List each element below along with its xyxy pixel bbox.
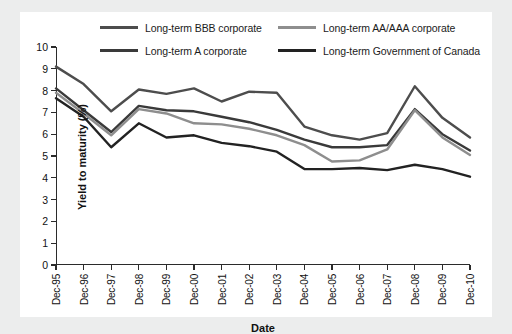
legend-item-aa-aaa: Long-term AA/AAA corporate — [278, 22, 468, 34]
x-tick-label: Dec-07 — [382, 274, 393, 305]
plot-area: 012345678910 Dec-95Dec-96Dec-97Dec-98Dec… — [56, 47, 470, 265]
x-tick-label: Dec-08 — [409, 274, 420, 305]
x-tick — [221, 265, 222, 270]
y-tick-label: 2 — [42, 215, 48, 227]
x-tick-label: Dec-96 — [78, 274, 89, 305]
x-tick-label: Dec-02 — [244, 274, 255, 305]
y-tick-label: 7 — [42, 106, 48, 118]
x-tick-label: Dec-97 — [106, 274, 117, 305]
x-tick-label: Dec-99 — [161, 274, 172, 305]
legend-swatch-aa-aaa — [278, 26, 316, 29]
x-axis-title: Date — [56, 322, 470, 334]
legend-item-bbb: Long-term BBB corporate — [100, 22, 278, 34]
y-axis-title: Yield to maturity (%) — [76, 67, 88, 247]
x-tick — [249, 265, 250, 270]
series-lines — [56, 47, 470, 265]
legend-swatch-bbb — [100, 26, 138, 29]
x-tick-label: Dec-03 — [271, 274, 282, 305]
x-tick — [138, 265, 139, 270]
y-tick-label: 9 — [42, 63, 48, 75]
y-tick-label: 10 — [36, 41, 48, 53]
x-tick — [414, 265, 415, 270]
x-tick — [304, 265, 305, 270]
y-tick-label: 1 — [42, 237, 48, 249]
y-tick-label: 0 — [42, 259, 48, 271]
y-tick-label: 3 — [42, 194, 48, 206]
x-tick-label: Dec-95 — [51, 274, 62, 305]
x-tick — [469, 265, 470, 270]
x-tick — [111, 265, 112, 270]
x-tick — [83, 265, 84, 270]
legend-label-bbb: Long-term BBB corporate — [145, 22, 262, 34]
x-tick-label: Dec-98 — [133, 274, 144, 305]
x-tick — [166, 265, 167, 270]
x-tick — [442, 265, 443, 270]
x-tick-label: Dec-10 — [465, 274, 476, 305]
x-tick — [193, 265, 194, 270]
x-tick-label: Dec-06 — [354, 274, 365, 305]
series-line-3 — [56, 98, 470, 176]
x-tick-label: Dec-04 — [299, 274, 310, 305]
legend-label-aa-aaa: Long-term AA/AAA corporate — [323, 22, 455, 34]
x-tick — [276, 265, 277, 270]
x-tick-label: Dec-01 — [216, 274, 227, 305]
x-tick-label: Dec-09 — [437, 274, 448, 305]
x-tick — [387, 265, 388, 270]
y-tick-label: 6 — [42, 128, 48, 140]
x-tick — [55, 265, 56, 270]
x-tick — [359, 265, 360, 270]
x-tick-label: Dec-00 — [189, 274, 200, 305]
y-tick-label: 8 — [42, 85, 48, 97]
x-tick-label: Dec-05 — [327, 274, 338, 305]
chart-page: Long-term BBB corporate Long-term AA/AAA… — [0, 0, 512, 334]
x-tick — [331, 265, 332, 270]
y-tick-label: 5 — [42, 150, 48, 162]
y-tick-label: 4 — [42, 172, 48, 184]
